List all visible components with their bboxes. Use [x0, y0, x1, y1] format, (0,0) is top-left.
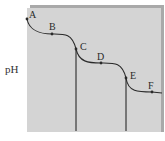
point-marker: [151, 91, 154, 94]
point-label: B: [49, 21, 56, 32]
titration-curve: ABCDEF: [0, 0, 165, 141]
data-points: ABCDEF: [26, 9, 154, 93]
point-marker: [75, 48, 78, 51]
point-marker: [51, 33, 54, 36]
point-marker: [125, 77, 128, 80]
point-label: D: [97, 51, 104, 62]
point-label: A: [29, 9, 37, 20]
point-label: F: [148, 80, 154, 91]
point-label: E: [130, 70, 136, 81]
point-marker: [100, 62, 103, 65]
curve-line: [27, 19, 162, 93]
point-label: C: [80, 41, 87, 52]
point-marker: [26, 18, 29, 21]
